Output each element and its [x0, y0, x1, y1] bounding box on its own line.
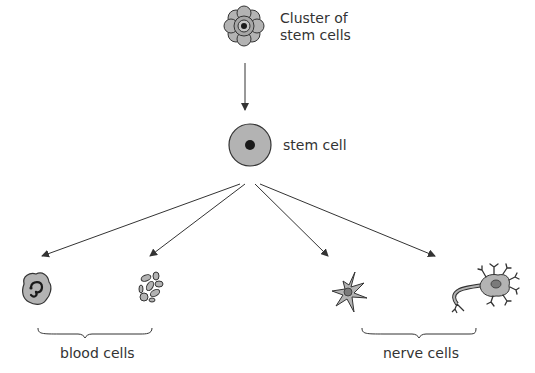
cluster-label-line2: stem cells — [280, 26, 351, 44]
platelets-icon — [139, 272, 163, 302]
diagram: Cluster of stem cells stem cell blood ce… — [0, 0, 535, 373]
stem-cell-cluster-icon — [224, 6, 264, 46]
blood-cells-label: blood cells — [60, 344, 135, 362]
glial-cell-icon — [332, 272, 367, 312]
nerve-cells-brace — [362, 328, 476, 338]
cluster-label-line1: Cluster of — [280, 9, 348, 27]
stem-cell-icon — [229, 124, 271, 166]
diagram-canvas — [0, 0, 535, 373]
blood-cells-brace — [38, 328, 152, 338]
arrow-to-neuron — [260, 184, 435, 256]
arrow-to-white-blood-cell — [42, 184, 240, 256]
arrow-to-platelets — [150, 184, 245, 256]
stem-cell-label: stem cell — [283, 136, 347, 154]
arrow-to-glial-cell — [255, 184, 328, 256]
white-blood-cell-icon — [23, 273, 51, 304]
nerve-cells-label: nerve cells — [383, 344, 459, 362]
neuron-icon — [452, 264, 519, 313]
